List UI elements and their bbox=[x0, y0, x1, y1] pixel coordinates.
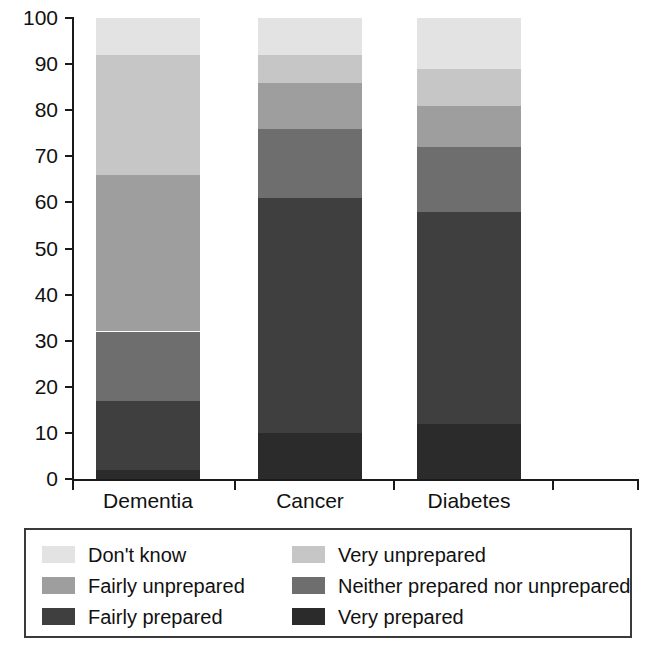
legend-swatch-icon bbox=[42, 577, 75, 594]
y-axis-tick bbox=[65, 63, 74, 65]
y-axis-tick-label: 30 bbox=[0, 330, 58, 351]
y-axis-tick-label: 20 bbox=[0, 376, 58, 397]
plot-area: 0102030405060708090100 DementiaCancerDia… bbox=[0, 0, 662, 512]
bar-segment bbox=[96, 175, 200, 332]
y-axis-tick-label: 100 bbox=[0, 7, 58, 28]
x-axis-tick bbox=[393, 479, 395, 490]
bar-segment bbox=[258, 18, 362, 55]
stacked-bar-dementia bbox=[96, 18, 200, 479]
stacked-bar-cancer bbox=[258, 18, 362, 479]
legend-swatch-icon bbox=[42, 546, 75, 563]
bar-segment bbox=[417, 106, 521, 147]
bar-segment bbox=[258, 198, 362, 433]
legend-swatch-icon bbox=[292, 577, 325, 594]
legend-item: Neither prepared nor unprepared bbox=[292, 570, 630, 601]
y-axis-tick bbox=[65, 155, 74, 157]
bar-segment bbox=[417, 424, 521, 479]
legend-swatch-icon bbox=[292, 608, 325, 625]
y-axis-tick-label: 70 bbox=[0, 145, 58, 166]
legend-label: Fairly prepared bbox=[88, 607, 223, 627]
y-axis-tick bbox=[65, 340, 74, 342]
bar-segment bbox=[417, 147, 521, 212]
bar-segment bbox=[258, 433, 362, 479]
stacked-bar-diabetes bbox=[417, 18, 521, 479]
x-axis-tick bbox=[234, 479, 236, 490]
legend-label: Very prepared bbox=[338, 607, 464, 627]
legend: Don't knowVery unpreparedFairly unprepar… bbox=[24, 528, 632, 638]
y-axis-tick-label: 80 bbox=[0, 99, 58, 120]
y-axis-tick bbox=[65, 432, 74, 434]
legend-item: Fairly unprepared bbox=[42, 570, 288, 601]
legend-label: Don't know bbox=[88, 545, 186, 565]
y-axis-tick-label: 0 bbox=[0, 468, 58, 489]
x-axis-tick bbox=[72, 479, 74, 490]
bar-segment bbox=[417, 18, 521, 69]
x-axis-tick bbox=[637, 479, 639, 490]
y-axis-tick-label: 50 bbox=[0, 238, 58, 259]
legend-swatch-icon bbox=[292, 546, 325, 563]
x-axis-label-diabetes: Diabetes bbox=[369, 490, 569, 511]
y-axis-tick bbox=[65, 386, 74, 388]
y-axis-tick bbox=[65, 248, 74, 250]
y-axis-tick bbox=[65, 109, 74, 111]
y-axis-tick-label: 10 bbox=[0, 422, 58, 443]
y-axis-tick-label: 60 bbox=[0, 191, 58, 212]
legend-item: Very prepared bbox=[292, 601, 630, 632]
bar-segment bbox=[417, 69, 521, 106]
bar-segment bbox=[96, 332, 200, 401]
bar-segment bbox=[96, 401, 200, 470]
bar-segment bbox=[258, 83, 362, 129]
bar-segment bbox=[258, 55, 362, 83]
legend-label: Fairly unprepared bbox=[88, 576, 245, 596]
x-axis-tick bbox=[552, 479, 554, 490]
legend-item: Fairly prepared bbox=[42, 601, 288, 632]
y-axis-tick bbox=[65, 201, 74, 203]
bar-segment bbox=[258, 129, 362, 198]
y-axis-tick-label: 90 bbox=[0, 53, 58, 74]
legend-swatch-icon bbox=[42, 608, 75, 625]
chart-page: 0102030405060708090100 DementiaCancerDia… bbox=[0, 0, 662, 662]
bar-segment bbox=[96, 55, 200, 175]
y-axis-tick bbox=[65, 17, 74, 19]
y-axis-tick-label: 40 bbox=[0, 284, 58, 305]
legend-item: Very unprepared bbox=[292, 539, 630, 570]
legend-grid: Don't knowVery unpreparedFairly unprepar… bbox=[42, 539, 620, 632]
y-axis-tick bbox=[65, 294, 74, 296]
bar-segment bbox=[417, 212, 521, 424]
bar-segment bbox=[96, 470, 200, 479]
legend-item: Don't know bbox=[42, 539, 288, 570]
bar-segment bbox=[96, 18, 200, 55]
legend-label: Very unprepared bbox=[338, 545, 486, 565]
legend-label: Neither prepared nor unprepared bbox=[338, 576, 630, 596]
